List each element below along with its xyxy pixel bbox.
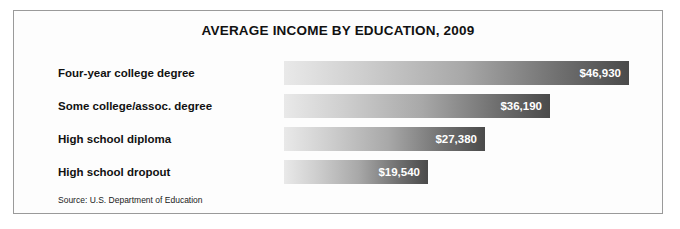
bar-track: $27,380 — [284, 127, 662, 151]
bar-track: $19,540 — [284, 160, 662, 184]
bar[interactable]: $46,930 — [284, 61, 629, 85]
category-label: Some college/assoc. degree — [58, 94, 212, 118]
category-label: High school diploma — [58, 127, 171, 151]
category-label: High school dropout — [58, 160, 170, 184]
bar-row: Four-year college degree $46,930 — [14, 61, 662, 85]
bar-chart-plot-area: Four-year college degree $46,930 Some co… — [14, 61, 662, 191]
bar-value-label: $36,190 — [500, 100, 542, 112]
bar-track: $46,930 — [284, 61, 662, 85]
bar-value-label: $46,930 — [579, 67, 621, 79]
bar[interactable]: $19,540 — [284, 160, 428, 184]
bar-row: Some college/assoc. degree $36,190 — [14, 94, 662, 118]
bar-value-label: $19,540 — [378, 166, 420, 178]
bar[interactable]: $27,380 — [284, 127, 485, 151]
bar-track: $36,190 — [284, 94, 662, 118]
bar-row: High school dropout $19,540 — [14, 160, 662, 184]
bar[interactable]: $36,190 — [284, 94, 550, 118]
chart-title: AVERAGE INCOME BY EDUCATION, 2009 — [14, 23, 662, 38]
source-note: Source: U.S. Department of Education — [58, 195, 203, 205]
category-label: Four-year college degree — [58, 61, 195, 85]
bar-value-label: $27,380 — [435, 133, 477, 145]
bar-row: High school diploma $27,380 — [14, 127, 662, 151]
chart-frame: AVERAGE INCOME BY EDUCATION, 2009 Four-y… — [13, 10, 663, 214]
